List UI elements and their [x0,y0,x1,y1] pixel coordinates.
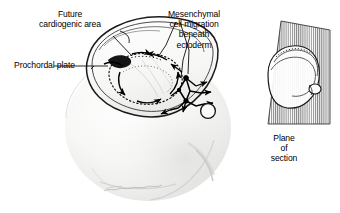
label-prochordal-plate: Prochordal plate [14,60,110,70]
label-mesenchymal-cell-migration: Mesenchymal cell migration beneath ectod… [152,9,236,50]
label-plane-of-section: Plane of section [256,133,312,164]
label-future-cardiogenic-area: Future cardiogenic area [18,9,122,29]
connecting-stalk [201,104,216,119]
embryology-figure: Future cardiogenic area Prochordal plate… [0,0,340,213]
inset-orientation [268,21,330,124]
